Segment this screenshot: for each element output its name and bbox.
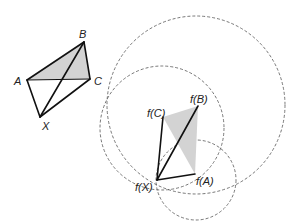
edge-fx-fa <box>157 174 195 180</box>
edge-x-c <box>40 79 90 117</box>
edge-a-x <box>27 80 40 117</box>
label-x: X <box>41 120 50 132</box>
right-figure: f(X) f(A) f(B) f(C) <box>135 93 214 193</box>
left-figure: A B C X <box>13 28 102 132</box>
label-fx: f(X) <box>135 181 153 193</box>
label-a: A <box>13 75 21 87</box>
label-fc: f(C) <box>147 107 166 119</box>
label-c: C <box>94 75 102 87</box>
label-fb: f(B) <box>190 93 208 105</box>
circle-large <box>107 16 285 194</box>
diagram-canvas: A B C X f(X) f(A) f(B) f(C) <box>0 0 298 222</box>
label-b: B <box>79 28 86 40</box>
label-fa: f(A) <box>196 175 214 187</box>
